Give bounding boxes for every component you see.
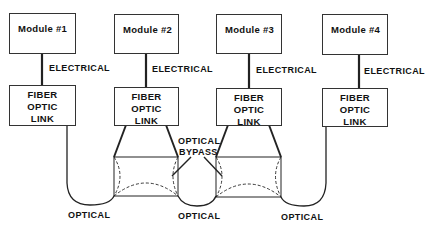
module-3-box: Module #3 <box>216 14 282 54</box>
link-line-3: LINK <box>323 116 387 128</box>
module-1-box: Module #1 <box>9 13 76 54</box>
link-line-1: FIBER <box>323 92 387 104</box>
electrical-label-3: ELECTRICAL <box>256 65 317 75</box>
link-line-3: LINK <box>10 113 75 125</box>
link-line-2: OPTIC <box>323 104 387 116</box>
electrical-label-2: ELECTRICAL <box>152 64 213 74</box>
link-line-2: OPTIC <box>10 101 75 113</box>
link-line-1: FIBER <box>115 91 178 103</box>
fiber-optic-link-4: FIBER OPTIC LINK <box>322 88 388 127</box>
link-line-3: LINK <box>115 115 178 127</box>
bypass-label-line1: OPTICAL <box>178 136 220 146</box>
fiber-optic-link-3: FIBER OPTIC LINK <box>216 88 282 126</box>
optical-label-1: OPTICAL <box>68 210 110 220</box>
module-2-box: Module #2 <box>114 14 179 54</box>
fiber-optic-link-2: FIBER OPTIC LINK <box>114 87 179 126</box>
electrical-label-1: ELECTRICAL <box>49 63 110 73</box>
link-line-2: OPTIC <box>115 103 178 115</box>
optical-label-3: OPTICAL <box>281 212 323 222</box>
link-line-2: OPTIC <box>217 104 281 116</box>
module-3-label: Module #3 <box>217 24 281 35</box>
fiber-optic-link-1: FIBER OPTIC LINK <box>9 85 76 126</box>
link-line-3: LINK <box>217 116 281 128</box>
module-4-label: Module #4 <box>323 24 387 35</box>
bypass-label-line2: BYPASS <box>179 147 218 157</box>
link-line-1: FIBER <box>10 89 75 101</box>
optical-label-2: OPTICAL <box>178 211 220 221</box>
link-line-1: FIBER <box>217 92 281 104</box>
module-2-label: Module #2 <box>115 24 178 35</box>
module-4-box: Module #4 <box>322 14 388 55</box>
electrical-label-4: ELECTRICAL <box>364 66 425 76</box>
module-1-label: Module #1 <box>10 23 75 34</box>
